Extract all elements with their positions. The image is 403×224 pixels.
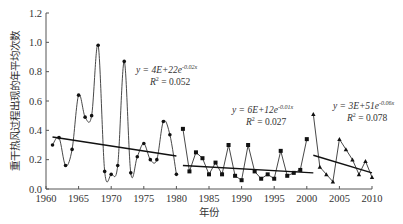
y-tick-label: 0.6 xyxy=(29,96,42,107)
x-tick-label: 1960 xyxy=(36,193,57,204)
x-tick-label: 1990 xyxy=(231,193,252,204)
data-point xyxy=(266,172,270,176)
series-line xyxy=(183,129,307,180)
data-point xyxy=(109,173,113,177)
data-point xyxy=(155,158,159,162)
y-tick-label: 0.4 xyxy=(29,125,43,136)
data-point xyxy=(363,159,367,163)
x-tick-label: 1965 xyxy=(68,193,89,204)
data-point xyxy=(285,174,289,178)
data-point xyxy=(272,177,276,181)
data-point xyxy=(337,137,341,141)
data-point xyxy=(194,150,198,154)
x-tick-label: 2000 xyxy=(296,193,317,204)
data-point xyxy=(83,115,87,119)
data-point xyxy=(370,175,374,179)
data-point xyxy=(187,169,191,173)
data-point xyxy=(318,165,322,169)
x-tick-label: 2005 xyxy=(329,193,350,204)
data-point xyxy=(233,174,237,178)
data-point xyxy=(259,177,263,181)
trend-equation: y = 6E+12e-0.01x xyxy=(231,104,294,115)
data-point xyxy=(70,148,74,152)
y-tick-label: 0.2 xyxy=(29,154,42,165)
data-point xyxy=(168,133,172,137)
x-tick-label: 2010 xyxy=(362,193,383,204)
data-point xyxy=(149,158,153,162)
data-point xyxy=(311,112,315,116)
x-tick-label: 1970 xyxy=(101,193,122,204)
trend-r-squared: R2 = 0.027 xyxy=(245,116,287,127)
data-point xyxy=(175,173,179,177)
trend-equation: y = 3E+51e-0.06x xyxy=(332,100,395,111)
y-axis-title: 重干热风过程出现的年平均次数 xyxy=(9,30,21,171)
data-point xyxy=(214,161,218,165)
data-point xyxy=(305,137,309,141)
data-point xyxy=(246,143,250,147)
data-point xyxy=(51,143,55,147)
data-point xyxy=(96,43,100,47)
data-point xyxy=(162,120,166,124)
trendline-layer xyxy=(53,137,372,173)
y-tick-label: 0.8 xyxy=(29,66,42,77)
data-point xyxy=(142,142,146,146)
axes: 0.00.20.40.60.81.01.21960196519701975198… xyxy=(9,8,383,219)
data-point xyxy=(279,149,283,153)
trend-equation: y = 4E+22e-0.02x xyxy=(135,64,198,75)
data-point xyxy=(116,164,120,168)
data-point xyxy=(298,168,302,172)
data-point xyxy=(103,170,107,174)
line-chart: 0.00.20.40.60.81.01.21960196519701975198… xyxy=(0,0,403,224)
data-point xyxy=(77,93,81,97)
series-line xyxy=(313,114,372,181)
y-tick-label: 1.2 xyxy=(29,8,42,19)
data-point xyxy=(64,164,68,168)
trendline xyxy=(183,166,313,173)
x-tick-label: 1980 xyxy=(166,193,187,204)
data-point xyxy=(227,143,231,147)
labels-layer: y = 4E+22e-0.02xR2 = 0.052y = 6E+12e-0.0… xyxy=(135,64,395,127)
series-layer xyxy=(51,43,374,183)
x-tick-label: 1995 xyxy=(264,193,285,204)
data-point xyxy=(129,171,133,175)
x-tick-label: 1985 xyxy=(199,193,220,204)
data-point xyxy=(200,156,204,160)
x-tick-label: 1975 xyxy=(133,193,154,204)
x-axis-title: 年份 xyxy=(199,206,220,218)
trend-r-squared: R2 = 0.078 xyxy=(346,112,388,123)
data-point xyxy=(240,178,244,182)
data-point xyxy=(357,172,361,176)
trend-r-squared: R2 = 0.052 xyxy=(149,76,191,87)
data-point xyxy=(207,172,211,176)
data-point xyxy=(90,114,94,118)
data-point xyxy=(122,60,126,64)
data-point xyxy=(135,155,139,159)
y-tick-label: 1.0 xyxy=(29,37,42,48)
data-point xyxy=(220,172,224,176)
data-point xyxy=(181,127,185,131)
